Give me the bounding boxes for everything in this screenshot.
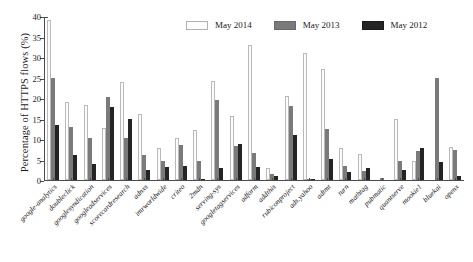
y-axis-title: Percentage of HTTPS flows (%)	[19, 13, 30, 193]
y-tick-label: 15	[33, 115, 42, 124]
y-axis-line	[44, 17, 45, 181]
x-tick-mark	[455, 178, 456, 181]
y-tick-label: 10	[33, 136, 42, 145]
bar-group	[157, 148, 169, 180]
bar-group	[65, 102, 77, 180]
bar	[110, 107, 114, 180]
x-tick-mark	[199, 178, 200, 181]
x-tick-mark	[108, 178, 109, 181]
bar	[238, 144, 242, 180]
x-tick-mark	[254, 178, 255, 181]
bar-group	[449, 147, 461, 180]
x-tick-mark	[217, 178, 218, 181]
bar-chart-figure: Percentage of HTTPS flows (%) May 2014Ma…	[0, 0, 473, 262]
y-tick-label: 25	[33, 74, 42, 83]
bar	[183, 166, 187, 180]
y-tick-label: 0	[37, 177, 41, 186]
y-tick-label: 5	[37, 156, 41, 165]
bar-group	[248, 45, 260, 180]
y-axis-cap-top	[44, 17, 48, 18]
bar	[457, 176, 461, 180]
bar	[146, 170, 150, 180]
bar	[256, 167, 260, 180]
bar-group	[285, 96, 297, 180]
bar-group	[358, 154, 370, 180]
x-tick-mark	[364, 178, 365, 181]
bar	[92, 164, 96, 180]
x-tick-mark	[90, 178, 91, 181]
bar	[420, 148, 424, 180]
bar-group	[412, 148, 424, 180]
bar	[219, 168, 223, 180]
x-tick-mark	[437, 178, 438, 181]
bar-group	[303, 53, 315, 180]
x-axis-labels: google-analyticsdoubleclickgooglesyndica…	[44, 183, 464, 262]
bar	[55, 125, 59, 180]
bar-group	[138, 114, 150, 180]
x-tick-mark	[327, 178, 328, 181]
bar	[439, 162, 443, 180]
bar	[274, 176, 278, 180]
x-tick-mark	[291, 178, 292, 181]
bar-group	[339, 148, 351, 180]
x-tick-mark	[53, 178, 54, 181]
x-tick-mark	[418, 178, 419, 181]
bar-group	[84, 105, 96, 180]
bar-group	[120, 82, 132, 180]
bar-group	[230, 116, 242, 180]
bar-group	[211, 81, 223, 180]
bar	[329, 159, 333, 180]
x-tick-mark	[272, 178, 273, 181]
x-tick-mark	[400, 178, 401, 181]
bar-group	[321, 69, 333, 180]
x-tick-mark	[382, 178, 383, 181]
bar	[293, 135, 297, 180]
bar	[311, 179, 315, 180]
bar	[366, 168, 370, 180]
plot-area: 0510152025303540	[44, 17, 464, 181]
x-tick-mark	[163, 178, 164, 181]
bar-group	[175, 138, 187, 180]
x-tick-mark	[144, 178, 145, 181]
bar-group	[193, 130, 205, 180]
bar-group	[47, 20, 59, 180]
x-tick-mark	[71, 178, 72, 181]
bar	[128, 119, 132, 180]
bar	[303, 53, 307, 180]
bar-group	[431, 78, 443, 181]
bar-group	[102, 97, 114, 180]
x-tick-mark	[309, 178, 310, 181]
y-tick-label: 35	[33, 33, 42, 42]
bar	[73, 155, 77, 180]
y-tick-label: 20	[33, 95, 42, 104]
x-tick-mark	[181, 178, 182, 181]
bar	[402, 170, 406, 180]
y-tick-label: 40	[33, 13, 42, 22]
y-tick-label: 30	[33, 54, 42, 63]
x-tick-mark	[345, 178, 346, 181]
bar	[201, 179, 205, 180]
x-tick-mark	[236, 178, 237, 181]
bar	[165, 167, 169, 180]
x-tick-mark	[126, 178, 127, 181]
bar-group	[394, 119, 406, 181]
bar	[347, 172, 351, 180]
